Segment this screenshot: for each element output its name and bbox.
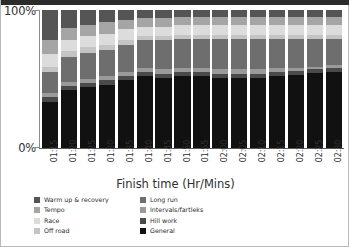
bar-segment: [307, 73, 323, 148]
bar-segment: [137, 27, 153, 37]
bar-01-15[interactable]: [42, 10, 58, 148]
bar-segment: [193, 76, 209, 148]
legend-item[interactable]: Race: [34, 217, 126, 225]
bar-segment: [118, 45, 134, 73]
x-tick-label: 02:10: [258, 140, 267, 163]
x-tick-cell: 02:10: [250, 150, 266, 176]
x-tick-cell: 02:30: [326, 150, 342, 176]
legend-label: Off road: [44, 227, 69, 235]
legend-item[interactable]: General: [140, 227, 240, 235]
bar-segment: [155, 10, 171, 18]
legend-label: Race: [44, 217, 59, 225]
x-tick-cell: 01:15: [42, 150, 58, 176]
x-axis-title: Finish time (Hr/Mins): [1, 177, 349, 191]
bar-segment: [307, 17, 323, 25]
x-tick-label: 01:30: [107, 140, 116, 163]
bar-segment: [61, 57, 77, 82]
bar-segment: [307, 10, 323, 17]
x-tick-cell: 02:15: [269, 150, 285, 176]
legend-label: Long run: [150, 196, 178, 204]
legend-label: General: [150, 227, 175, 235]
bar-segment: [193, 17, 209, 25]
bar-segment: [174, 39, 190, 68]
bar-segment: [326, 72, 342, 148]
bar-segment: [174, 25, 190, 35]
legend-label: Warm up & recovery: [44, 196, 109, 204]
bar-02-00[interactable]: [212, 10, 228, 148]
bar-segment: [212, 39, 228, 69]
bar-01-40[interactable]: [137, 10, 153, 148]
bar-segment: [80, 53, 96, 79]
bar-segment: [212, 10, 228, 17]
bar-02-30[interactable]: [326, 10, 342, 148]
bar-segment: [80, 36, 96, 47]
bar-01-45[interactable]: [155, 10, 171, 148]
bar-segment: [269, 39, 285, 68]
x-tick-cell: 01:45: [155, 150, 171, 176]
bar-01-55[interactable]: [193, 10, 209, 148]
bar-segment: [137, 40, 153, 68]
bar-01-25[interactable]: [80, 10, 96, 148]
bar-01-20[interactable]: [61, 10, 77, 148]
legend-column-left: Warm up & recoveryTempoRaceOff road: [34, 196, 126, 235]
bar-segment: [61, 28, 77, 40]
legend-item[interactable]: Tempo: [34, 206, 126, 214]
bar-segment: [250, 17, 266, 25]
y-axis-label-bottom: 0%: [18, 141, 36, 155]
legend-item[interactable]: Hill work: [140, 217, 240, 225]
legend-item[interactable]: Off road: [34, 227, 126, 235]
bar-segment: [326, 39, 342, 65]
legend-item[interactable]: Warm up & recovery: [34, 196, 126, 204]
x-tick-label: 01:25: [88, 140, 97, 163]
bar-segment: [80, 10, 96, 25]
bar-segment: [288, 10, 304, 17]
legend-column-right: Long runIntervals/fartleksHill workGener…: [140, 196, 240, 235]
x-tick-label: 02:05: [239, 140, 248, 163]
bar-segment: [326, 17, 342, 25]
bar-segment: [61, 40, 77, 51]
bar-segment: [155, 78, 171, 148]
bar-01-50[interactable]: [174, 10, 190, 148]
bar-02-15[interactable]: [269, 10, 285, 148]
top-band: [1, 0, 349, 5]
x-tick-label: 01:15: [50, 140, 59, 163]
bar-segment: [80, 25, 96, 36]
legend-swatch-icon: [34, 228, 40, 234]
bar-02-25[interactable]: [307, 10, 323, 148]
x-tick-label: 02:15: [277, 140, 286, 163]
bar-segment: [118, 29, 134, 40]
bar-segment: [231, 78, 247, 148]
x-tick-label: 01:40: [145, 140, 154, 163]
bar-02-10[interactable]: [250, 10, 266, 148]
bar-segment: [212, 17, 228, 25]
x-tick-cell: 02:20: [288, 150, 304, 176]
x-axis-tick-labels: 01:1501:2001:2501:3001:3501:4001:4501:50…: [42, 150, 342, 176]
bar-segment: [288, 75, 304, 148]
legend-swatch-icon: [140, 207, 146, 213]
bar-02-20[interactable]: [288, 10, 304, 148]
bar-segment: [231, 39, 247, 69]
bar-segment: [42, 40, 58, 54]
chart-page: 100% 0% 01:1501:2001:2501:3001:3501:4001…: [0, 0, 349, 247]
bar-segment: [307, 39, 323, 67]
legend-swatch-icon: [34, 207, 40, 213]
y-axis-line: [39, 10, 40, 148]
bar-segment: [212, 78, 228, 148]
x-tick-label: 01:55: [201, 140, 210, 163]
x-tick-label: 01:45: [164, 140, 173, 163]
bar-segment: [231, 25, 247, 35]
bar-01-30[interactable]: [99, 10, 115, 148]
bar-segment: [212, 25, 228, 35]
legend-item[interactable]: Intervals/fartleks: [140, 206, 240, 214]
legend-label: Hill work: [150, 217, 177, 225]
legend-item[interactable]: Long run: [140, 196, 240, 204]
bar-segment: [250, 25, 266, 35]
x-tick-cell: 01:30: [99, 150, 115, 176]
legend-label: Intervals/fartleks: [150, 206, 203, 214]
x-tick-cell: 02:25: [307, 150, 323, 176]
bar-02-05[interactable]: [231, 10, 247, 148]
bar-01-35[interactable]: [118, 10, 134, 148]
bar-segment: [99, 50, 115, 76]
y-tick-100: [35, 10, 40, 11]
bar-segment: [137, 10, 153, 18]
